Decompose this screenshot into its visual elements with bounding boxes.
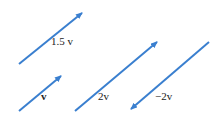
- label-v: v: [41, 91, 47, 102]
- vector-arrow-v: [19, 76, 61, 111]
- label-2v: 2v: [98, 91, 109, 102]
- label-1-5v: 1.5 v: [51, 36, 73, 47]
- vector-arrow-2v: [75, 42, 157, 111]
- vector-diagram: [0, 0, 222, 120]
- label-neg-2v: −2v: [155, 91, 172, 102]
